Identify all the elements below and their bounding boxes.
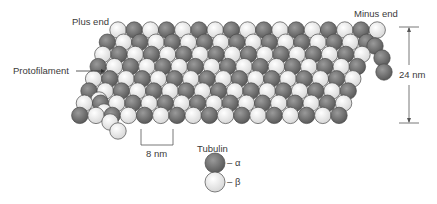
tubulin-lattice [72,22,393,139]
legend-beta-label: – β [227,176,240,187]
plus-end-label: Plus end [72,16,109,27]
alpha-tubulin-icon [205,153,225,173]
beta-tubulin-icon [205,172,225,192]
legend-title: Tubulin [197,143,228,154]
spacing-label: 8 nm [146,148,167,159]
protofilament-label: Protofilament [13,65,69,76]
legend-alpha-label: – α [227,157,240,168]
spacing-bracket [141,129,173,145]
diameter-label: 24 nm [398,69,426,80]
microtubule-illustration [0,0,437,204]
minus-end-label: Minus end [354,8,398,19]
